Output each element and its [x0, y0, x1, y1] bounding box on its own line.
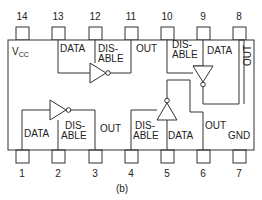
- gate-4-data-label: DATA: [60, 43, 86, 54]
- pin-4-label: 4: [128, 168, 134, 179]
- pin-14-label: 14: [16, 11, 28, 22]
- gate-1-out-label: OUT: [100, 123, 121, 134]
- pin-11: [125, 27, 138, 40]
- pin-1: [16, 150, 29, 163]
- gate-1-data-label: DATA: [24, 128, 50, 139]
- gnd-label: GND: [228, 130, 250, 141]
- inverter-bubble: [66, 108, 71, 113]
- gate-3-able-label: ABLE: [172, 49, 198, 60]
- pin-5: [161, 150, 174, 163]
- pin-6-label: 6: [200, 168, 206, 179]
- bottom-pin-numbers: 1 2 3 4 5 6 7: [19, 168, 242, 179]
- pin-2-label: 2: [55, 168, 61, 179]
- pin-9: [197, 27, 210, 40]
- gate-3-data-label: DATA: [207, 45, 233, 56]
- pin-8: [233, 27, 246, 40]
- top-pin-numbers: 14 13 12 11 10 9 8: [16, 11, 242, 22]
- gate-4-able-label: ABLE: [98, 53, 124, 64]
- pin-8-label: 8: [236, 11, 242, 22]
- pin-13: [52, 27, 65, 40]
- pin-10-label: 10: [161, 11, 173, 22]
- pin-12-label: 12: [89, 11, 101, 22]
- pin-13-label: 13: [52, 11, 64, 22]
- gate-2-able-label: ABLE: [133, 130, 159, 141]
- pin-3: [89, 150, 102, 163]
- pin-11-label: 11: [126, 11, 137, 22]
- pin-4: [125, 150, 138, 163]
- pin-14: [16, 27, 29, 40]
- inverter-bubble: [165, 98, 170, 103]
- pin-12: [89, 27, 102, 40]
- figure-caption: (b): [116, 183, 128, 194]
- pin-6: [197, 150, 210, 163]
- pin-2: [52, 150, 65, 163]
- inverter-bubble: [106, 71, 111, 76]
- pin-7-label: 7: [236, 168, 242, 179]
- ic-pinout-diagram: 14 13 12 11 10 9 8 1 2 3 4 5 6 7: [0, 0, 262, 200]
- gate-2-data-label: DATA: [168, 130, 194, 141]
- pin-1-label: 1: [19, 168, 25, 179]
- bottom-pins: [16, 150, 246, 163]
- gate-1-able-label: ABLE: [61, 130, 87, 141]
- top-pins: [16, 27, 246, 40]
- pin-5-label: 5: [164, 168, 170, 179]
- gate-2-out-label: OUT: [205, 120, 226, 131]
- pin-9-label: 9: [200, 11, 206, 22]
- gate-4-out-label: OUT: [136, 43, 157, 54]
- pin-7: [233, 150, 246, 163]
- gate-3-out-label: OUT: [242, 45, 253, 66]
- pin-3-label: 3: [92, 168, 98, 179]
- inverter-bubble: [201, 82, 206, 87]
